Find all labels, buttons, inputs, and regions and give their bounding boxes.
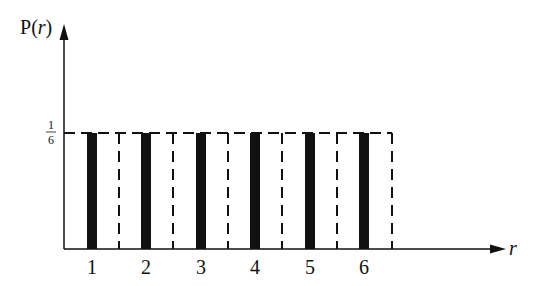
x-tick-label: 2 bbox=[141, 256, 151, 278]
x-tick-label: 5 bbox=[305, 256, 315, 278]
bar-6 bbox=[359, 133, 369, 249]
y-tick-numerator: 1 bbox=[48, 118, 54, 132]
x-axis-label: r bbox=[509, 237, 517, 259]
y-axis-label: P(r) bbox=[20, 16, 52, 39]
x-axis-arrow-icon bbox=[490, 245, 506, 254]
bar-2 bbox=[141, 133, 151, 249]
y-axis-arrow-icon bbox=[60, 24, 69, 40]
x-tick-label: 4 bbox=[250, 256, 260, 278]
x-tick-label: 1 bbox=[87, 256, 97, 278]
x-tick-label: 6 bbox=[359, 256, 369, 278]
x-tick-labels: 1 2 3 4 5 6 bbox=[87, 256, 369, 278]
bar-4 bbox=[250, 133, 260, 249]
x-tick-label: 3 bbox=[196, 256, 206, 278]
bar-1 bbox=[87, 133, 97, 249]
bar-5 bbox=[305, 133, 315, 249]
bar-3 bbox=[196, 133, 206, 249]
probability-chart: P(r) r 1 6 1 2 3 4 5 6 bbox=[0, 0, 543, 286]
y-tick-denominator: 6 bbox=[48, 133, 54, 147]
